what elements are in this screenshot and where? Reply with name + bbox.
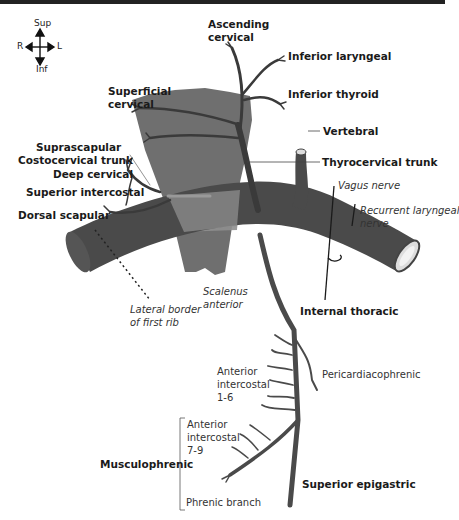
label-pericardiacophrenic: Pericardiacophrenic — [322, 368, 421, 381]
orientation-compass-icon — [26, 29, 54, 65]
vertebral-artery — [292, 149, 308, 210]
label-superficial-cervical: Superficialcervical — [108, 85, 171, 111]
label-vagus-nerve: Vagus nerve — [338, 179, 400, 192]
label-superior-epigastric: Superior epigastric — [302, 478, 416, 491]
compass-right: R — [17, 41, 23, 51]
label-thyrocervical-trunk: Thyrocervical trunk — [322, 156, 438, 169]
label-deep-cervical: Deep cervical — [53, 168, 133, 181]
label-costocervical-trunk: Costocervical trunk — [18, 154, 133, 167]
label-scalenus-anterior: Scalenusanterior — [203, 285, 248, 311]
label-vertebral: Vertebral — [323, 125, 378, 138]
label-inferior-thyroid: Inferior thyroid — [288, 88, 379, 101]
scalenus-anterior-muscle — [132, 88, 252, 275]
label-musculophrenic: Musculophrenic — [100, 458, 193, 471]
label-internal-thoracic: Internal thoracic — [300, 305, 399, 318]
compass-inf: Inf — [36, 64, 48, 74]
label-superior-intercostal: Superior intercostal — [26, 186, 144, 199]
label-suprascapular: Suprascapular — [36, 141, 121, 154]
label-inferior-laryngeal: Inferior laryngeal — [288, 50, 391, 63]
label-dorsal-scapular: Dorsal scapular — [18, 209, 110, 222]
label-anterior-intercostal-7-9: Anteriorintercostal7-9 — [187, 418, 240, 457]
label-ascending-cervical: Ascendingcervical — [208, 18, 269, 44]
label-anterior-intercostal-1-6: Anteriorintercostal1-6 — [217, 365, 270, 404]
label-phrenic-branch: Phrenic branch — [186, 496, 261, 509]
compass-sup: Sup — [34, 18, 51, 28]
label-lateral-border-first-rib: Lateral borderof first rib — [130, 303, 201, 329]
label-recurrent-laryngeal-nerve: Recurrent laryngealnerve — [360, 204, 459, 230]
compass-left: L — [57, 41, 62, 51]
